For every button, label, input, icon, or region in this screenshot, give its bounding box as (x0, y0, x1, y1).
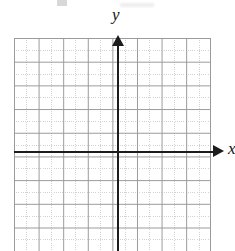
grid-area (14, 38, 211, 251)
arrow-up-icon (112, 35, 124, 46)
coordinate-plane-figure: y x (0, 0, 235, 251)
x-axis-line (14, 151, 218, 153)
scan-artifact (57, 0, 67, 6)
grid-right-border (210, 38, 211, 251)
scan-artifact-secondary (120, 3, 154, 7)
major-gridlines (14, 38, 211, 251)
y-axis-label: y (112, 6, 120, 23)
y-axis-line (117, 44, 119, 251)
x-axis-label: x (228, 140, 235, 157)
arrow-right-icon (213, 145, 224, 157)
